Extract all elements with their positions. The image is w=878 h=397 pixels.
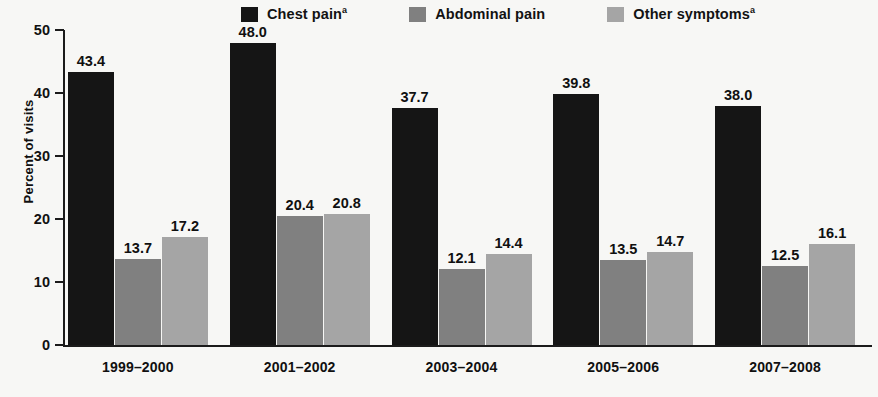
bar-value-label: 12.5 bbox=[771, 247, 799, 263]
y-axis-tick-label: 50 bbox=[0, 22, 50, 38]
bar-chest[interactable]: 39.8 bbox=[553, 94, 599, 345]
bar-value-label: 48.0 bbox=[239, 24, 267, 40]
bar-other[interactable]: 17.2 bbox=[162, 237, 208, 345]
legend-item-other-symptoms[interactable]: Other symptomsa bbox=[607, 6, 755, 22]
bar-group: 38.012.516.1 bbox=[715, 30, 855, 345]
bar-group: 48.020.420.8 bbox=[230, 30, 370, 345]
bar-value-label: 20.4 bbox=[286, 197, 314, 213]
legend-footnote-marker: a bbox=[342, 5, 347, 15]
plot-area: 43.413.717.248.020.420.837.712.114.439.8… bbox=[63, 30, 872, 345]
y-axis-tick-label: 0 bbox=[0, 337, 50, 353]
bar-chest[interactable]: 37.7 bbox=[392, 108, 438, 346]
bar-abdominal[interactable]: 13.5 bbox=[600, 260, 646, 345]
y-axis-tick-label: 40 bbox=[0, 85, 50, 101]
plot-wrapper: Percent of visits 01020304050 43.413.717… bbox=[0, 26, 878, 397]
bar-group: 37.712.114.4 bbox=[392, 30, 532, 345]
y-axis-tick-label: 20 bbox=[0, 211, 50, 227]
x-axis-tick-label: 2007–2008 bbox=[695, 359, 875, 375]
legend-item-chest-pain[interactable]: Chest paina bbox=[241, 6, 347, 22]
bar-other[interactable]: 14.4 bbox=[486, 254, 532, 345]
y-axis-tick-label: 10 bbox=[0, 274, 50, 290]
bar-other[interactable]: 20.8 bbox=[324, 214, 370, 345]
legend-footnote-marker: a bbox=[750, 5, 755, 15]
bar-other[interactable]: 16.1 bbox=[809, 244, 855, 345]
legend-swatch-icon bbox=[607, 7, 624, 22]
bar-group: 39.813.514.7 bbox=[553, 30, 693, 345]
bar-value-label: 13.7 bbox=[124, 240, 152, 256]
bar-value-label: 12.1 bbox=[447, 250, 475, 266]
x-axis-tick-label: 2003–2004 bbox=[372, 359, 552, 375]
bar-chest[interactable]: 43.4 bbox=[68, 72, 114, 345]
x-axis-tick-label: 1999–2000 bbox=[48, 359, 228, 375]
bar-abdominal[interactable]: 12.1 bbox=[439, 269, 485, 345]
bar-value-label: 14.4 bbox=[494, 235, 522, 251]
bar-chest[interactable]: 48.0 bbox=[230, 43, 276, 345]
bar-group: 43.413.717.2 bbox=[68, 30, 208, 345]
legend-item-label: Chest paina bbox=[267, 6, 347, 22]
bar-value-label: 37.7 bbox=[400, 89, 428, 105]
bar-value-label: 43.4 bbox=[77, 53, 105, 69]
legend-swatch-icon bbox=[241, 7, 258, 22]
bar-abdominal[interactable]: 13.7 bbox=[115, 259, 161, 345]
x-axis-tick-label: 2001–2002 bbox=[210, 359, 390, 375]
bar-value-label: 39.8 bbox=[562, 75, 590, 91]
bar-other[interactable]: 14.7 bbox=[647, 252, 693, 345]
bar-value-label: 13.5 bbox=[609, 241, 637, 257]
bar-value-label: 17.2 bbox=[171, 218, 199, 234]
bar-value-label: 20.8 bbox=[333, 195, 361, 211]
bar-value-label: 16.1 bbox=[818, 225, 846, 241]
bar-abdominal[interactable]: 12.5 bbox=[762, 266, 808, 345]
bar-chest[interactable]: 38.0 bbox=[715, 106, 761, 345]
bar-value-label: 38.0 bbox=[724, 87, 752, 103]
bar-value-label: 14.7 bbox=[656, 233, 684, 249]
y-axis-tick-label: 30 bbox=[0, 148, 50, 164]
legend-item-label: Abdominal pain bbox=[435, 6, 545, 22]
x-axis-tick-label: 2005–2006 bbox=[533, 359, 713, 375]
x-axis-line bbox=[63, 345, 872, 347]
legend-item-abdominal-pain[interactable]: Abdominal pain bbox=[409, 6, 545, 22]
legend-item-label: Other symptomsa bbox=[633, 6, 755, 22]
chart-legend: Chest painaAbdominal painOther symptomsa bbox=[0, 2, 878, 26]
bar-abdominal[interactable]: 20.4 bbox=[277, 216, 323, 345]
bar-chart-figure: Chest painaAbdominal painOther symptomsa… bbox=[0, 0, 878, 397]
legend-swatch-icon bbox=[409, 7, 426, 22]
